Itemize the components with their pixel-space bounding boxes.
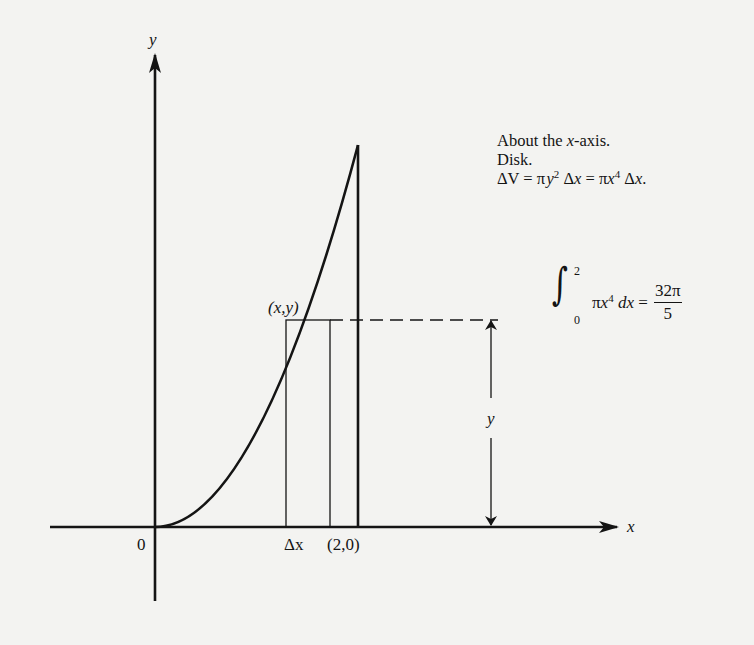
annotation-block: About the x-axis. Disk. ΔV = π y2 Δx = π…	[497, 131, 646, 188]
x-axis-label: x	[627, 518, 635, 535]
result-fraction: 32π5	[654, 281, 682, 324]
origin-label: 0	[137, 536, 146, 553]
strip-width-label: Δx	[284, 536, 303, 553]
integrand: πx4 dx = 32π5	[592, 283, 682, 326]
volume-element-formula: ΔV = π y2 Δx = πx4 Δx.	[497, 169, 646, 188]
sample-point-label: (x,y)	[268, 299, 299, 316]
method-line: Disk.	[497, 150, 646, 169]
curve-y-equals-x-squared	[155, 145, 358, 527]
upper-limit: 2	[574, 264, 580, 279]
lower-limit: 0	[574, 313, 580, 328]
y-axis-label: y	[149, 31, 157, 48]
endpoint-label: (2,0)	[327, 536, 360, 553]
height-label: y	[487, 410, 495, 427]
axis-of-rotation-line: About the x-axis.	[497, 131, 646, 150]
integral-sign-icon: ∫	[552, 258, 568, 309]
